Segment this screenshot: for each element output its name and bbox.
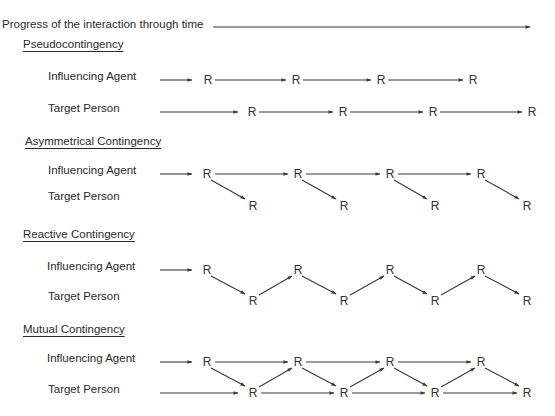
asym-target-response: R: [431, 199, 440, 213]
reactive-target-to-agent-arrow: [259, 276, 292, 295]
mutual-agent-to-target-arrow: [211, 368, 245, 386]
mutual-agent-response: R: [203, 355, 212, 369]
reactive-agent-response: R: [477, 263, 486, 277]
mutual-target-response: R: [249, 386, 258, 400]
reactive-target-response: R: [249, 294, 258, 308]
asym-agent-response: R: [203, 167, 212, 181]
mutual-agent-to-target-arrow: [485, 368, 519, 386]
asym-agent-to-target-arrow: [211, 180, 245, 199]
pseudo-agent-response: R: [377, 73, 386, 87]
asym-agent-to-target-arrow: [485, 180, 519, 199]
pseudo-agent-response: R: [469, 73, 478, 87]
mutual-agent-response: R: [294, 355, 303, 369]
asym-agent-response: R: [386, 167, 395, 181]
pseudo-target-response: R: [339, 105, 348, 119]
mutual-target-to-agent-arrow: [259, 368, 292, 387]
reactive-target-to-agent-arrow: [350, 276, 384, 295]
asym-agent-response: R: [294, 167, 303, 181]
mutual-target-response: R: [431, 386, 440, 400]
reactive-target-response: R: [523, 294, 532, 308]
asym-target-response: R: [340, 199, 349, 213]
mutual-target-response: R: [523, 386, 532, 400]
reactive-target-response: R: [431, 294, 440, 308]
asym-agent-to-target-arrow: [302, 180, 336, 199]
reactive-agent-response: R: [203, 263, 212, 277]
mutual-agent-response: R: [477, 355, 486, 369]
reactive-agent-to-target-arrow: [302, 276, 336, 294]
pseudo-target-response: R: [248, 105, 257, 119]
reactive-agent-to-target-arrow: [211, 276, 245, 294]
asym-target-response: R: [249, 199, 258, 213]
reactive-target-response: R: [340, 294, 349, 308]
pseudo-target-response: R: [429, 105, 438, 119]
reactive-agent-to-target-arrow: [394, 276, 427, 294]
pseudo-target-response: R: [528, 105, 537, 119]
asym-target-response: R: [523, 199, 532, 213]
pseudo-agent-response: R: [292, 73, 301, 87]
mutual-agent-to-target-arrow: [302, 368, 336, 386]
reactive-agent-to-target-arrow: [485, 276, 519, 294]
reactive-target-to-agent-arrow: [441, 276, 475, 295]
reactive-agent-response: R: [386, 263, 395, 277]
mutual-target-to-agent-arrow: [350, 368, 384, 387]
asym-agent-to-target-arrow: [394, 180, 427, 199]
contingency-diagram: RRRRRRRRRRRRRRRRRRRRRRRRRRRRRRRR: [0, 0, 555, 416]
reactive-agent-response: R: [294, 263, 303, 277]
mutual-agent-to-target-arrow: [394, 368, 427, 386]
asym-agent-response: R: [477, 167, 486, 181]
pseudo-agent-response: R: [204, 73, 213, 87]
mutual-target-response: R: [340, 386, 349, 400]
mutual-target-to-agent-arrow: [441, 368, 475, 387]
mutual-agent-response: R: [386, 355, 395, 369]
